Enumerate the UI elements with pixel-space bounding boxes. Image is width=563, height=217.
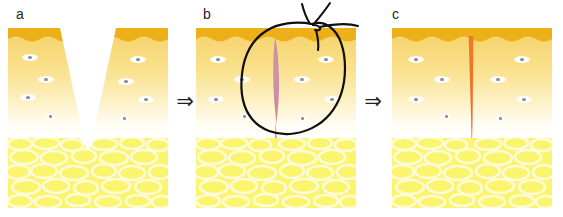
dermal-cell	[234, 76, 250, 83]
suture-thread-end-right	[313, 3, 330, 25]
dermal-cell	[120, 116, 129, 121]
skin-cross-section-a	[8, 28, 168, 208]
dermal-cell	[434, 76, 450, 83]
arrow-a-to-b: ⇒	[172, 88, 198, 114]
dermal-cell	[294, 76, 310, 83]
fat-cells-b	[196, 138, 356, 208]
dermal-cell	[46, 114, 55, 119]
panel-c-healed-scar	[392, 28, 552, 208]
panel-label-c: c	[392, 6, 399, 22]
suture-thread-tail-right	[320, 24, 358, 27]
suture-thread-end-left	[302, 4, 310, 24]
dermal-cell	[318, 56, 334, 63]
dermal-cell	[408, 56, 424, 63]
subcutaneous-fat-b	[196, 138, 356, 208]
dermal-cell	[442, 114, 451, 119]
dermal-cell	[38, 76, 54, 83]
dermal-cell	[138, 96, 154, 103]
dermal-cell	[210, 56, 226, 63]
fat-cells-c	[392, 138, 552, 208]
dermal-cell	[298, 116, 307, 121]
dermal-cell	[240, 114, 249, 119]
skin-cross-section-c	[392, 28, 552, 208]
dermal-cell	[516, 96, 532, 103]
panel-label-b: b	[203, 6, 211, 22]
panel-b-sutured-wound	[196, 28, 356, 208]
dermal-cell	[490, 76, 506, 83]
dermal-cell	[22, 54, 38, 61]
subcutaneous-fat-a	[8, 138, 168, 208]
wound-healing-figure: a b c	[0, 0, 563, 217]
fat-cells-a	[8, 138, 168, 208]
dermal-cell	[324, 96, 340, 103]
dermal-cell	[118, 78, 134, 85]
dermal-cell	[496, 116, 505, 121]
arrow-b-to-c: ⇒	[360, 88, 386, 114]
skin-cross-section-b	[196, 28, 356, 208]
dermal-cell	[208, 96, 224, 103]
dermal-cell	[20, 94, 36, 101]
dermal-cell	[408, 96, 424, 103]
dermal-cell	[130, 56, 146, 63]
subcutaneous-fat-c	[392, 138, 552, 208]
dermal-cell	[514, 56, 530, 63]
panel-label-a: a	[16, 6, 24, 22]
panel-a-open-wound	[8, 28, 168, 208]
